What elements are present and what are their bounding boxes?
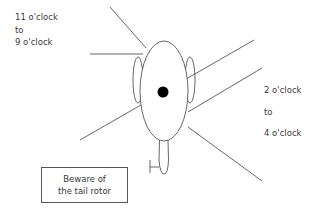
tail-rotor-warning-box: Beware of the tail rotor xyxy=(41,167,128,203)
left-label-line1: 11 o'clock xyxy=(15,11,58,24)
line-2-oclock xyxy=(188,68,262,112)
right-label-line2: to xyxy=(264,106,301,119)
left-zone-label: 11 o'clock to 9 o'clock xyxy=(15,11,58,49)
rotor-hub-icon xyxy=(158,87,169,98)
left-label-line2: to xyxy=(15,24,58,37)
left-label-line3: 9 o'clock xyxy=(15,36,58,49)
right-label-line3: 4 o'clock xyxy=(264,127,301,140)
tail-boom xyxy=(159,140,169,174)
line-4-oclock xyxy=(188,127,262,181)
line-11-oclock xyxy=(110,7,146,48)
warning-line1: Beware of xyxy=(42,173,127,185)
warning-line2: the tail rotor xyxy=(42,185,127,197)
right-label-line1: 2 o'clock xyxy=(264,84,301,97)
right-zone-label: 2 o'clock to 4 o'clock xyxy=(264,84,301,140)
